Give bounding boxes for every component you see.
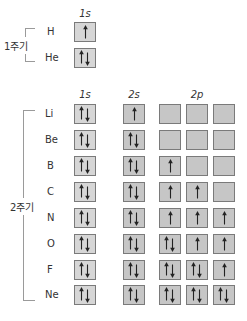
period-2-bracket-cap-bottom (23, 300, 35, 301)
spin-up-arrow-icon (168, 211, 173, 225)
spin-up-arrow-icon (195, 185, 200, 199)
orbital-2p1-c (159, 182, 181, 202)
header-2p: 2p (159, 89, 235, 100)
spin-up-arrow-icon (195, 211, 200, 225)
orbital-1s-ne (74, 285, 96, 305)
spin-up-arrow-icon (164, 236, 169, 250)
spin-up-arrow-icon (79, 210, 84, 224)
orbital-1s-be (74, 130, 96, 150)
spin-up-arrow-icon (222, 263, 227, 277)
spin-up-arrow-icon (191, 287, 196, 301)
spin-down-arrow-icon (85, 108, 90, 122)
orbital-2s-li (123, 104, 145, 124)
spin-up-arrow-icon (79, 50, 84, 64)
orbital-2s-c (123, 182, 145, 202)
orbital-2p2-n (186, 208, 208, 228)
spin-up-arrow-icon (164, 262, 169, 276)
spin-down-arrow-icon (170, 264, 175, 278)
spin-down-arrow-icon (134, 160, 139, 174)
orbital-2p1-b (159, 156, 181, 176)
orbital-2p1-o (159, 234, 181, 254)
element-label-b: B (47, 160, 71, 171)
orbital-2p1-n (159, 208, 181, 228)
orbital-1s-li (74, 104, 96, 124)
orbital-2s-o (123, 234, 145, 254)
spin-up-arrow-icon (128, 210, 133, 224)
spin-down-arrow-icon (134, 186, 139, 200)
spin-down-arrow-icon (170, 238, 175, 252)
spin-down-arrow-icon (134, 238, 139, 252)
orbital-2p1-ne (159, 285, 181, 305)
spin-up-arrow-icon (164, 287, 169, 301)
spin-up-arrow-icon (79, 106, 84, 120)
spin-up-arrow-icon (191, 262, 196, 276)
orbital-2p3-f (213, 260, 235, 280)
spin-up-arrow-icon (128, 184, 133, 198)
orbital-2s-n (123, 208, 145, 228)
orbital-1s-n (74, 208, 96, 228)
period-2-bracket-bottom (23, 212, 24, 300)
spin-up-arrow-icon (195, 237, 200, 251)
element-label-ne: Ne (45, 289, 69, 300)
orbital-2p2-f (186, 260, 208, 280)
spin-down-arrow-icon (85, 264, 90, 278)
orbital-2p1-li (159, 104, 181, 124)
orbital-2s-be (123, 130, 145, 150)
spin-up-arrow-icon (128, 158, 133, 172)
element-label-c: C (47, 186, 71, 197)
orbital-1s-c (74, 182, 96, 202)
orbital-2p3-o (213, 234, 235, 254)
spin-down-arrow-icon (85, 289, 90, 303)
spin-up-arrow-icon (222, 237, 227, 251)
orbital-1s-o (74, 234, 96, 254)
orbital-2p1-be (159, 130, 181, 150)
spin-down-arrow-icon (197, 264, 202, 278)
spin-up-arrow-icon (132, 107, 137, 121)
period-2-bracket-cap-top (23, 110, 35, 111)
orbital-2s-b (123, 156, 145, 176)
spin-up-arrow-icon (128, 262, 133, 276)
header-1s: 1s (74, 89, 96, 100)
element-label-f: F (47, 264, 71, 275)
spin-down-arrow-icon (197, 289, 202, 303)
spin-up-arrow-icon (79, 236, 84, 250)
orbital-1s-b (74, 156, 96, 176)
orbital-1s-f (74, 260, 96, 280)
orbital-2p2-o (186, 234, 208, 254)
spin-up-arrow-icon (128, 236, 133, 250)
orbital-2p3-n (213, 208, 235, 228)
spin-down-arrow-icon (170, 289, 175, 303)
spin-up-arrow-icon (79, 287, 84, 301)
spin-up-arrow-icon (218, 287, 223, 301)
element-label-be: Be (45, 134, 69, 145)
spin-down-arrow-icon (134, 134, 139, 148)
spin-up-arrow-icon (168, 185, 173, 199)
orbital-2p3-li (213, 104, 235, 124)
orbital-2s-ne (123, 285, 145, 305)
header-1s-period1: 1s (74, 8, 96, 19)
element-label-h: H (47, 26, 71, 37)
spin-down-arrow-icon (224, 289, 229, 303)
spin-up-arrow-icon (79, 184, 84, 198)
spin-down-arrow-icon (85, 212, 90, 226)
orbital-2p3-ne (213, 285, 235, 305)
element-label-n: N (47, 212, 71, 223)
spin-down-arrow-icon (134, 264, 139, 278)
orbital-2p3-be (213, 130, 235, 150)
spin-up-arrow-icon (168, 159, 173, 173)
spin-down-arrow-icon (85, 238, 90, 252)
spin-up-arrow-icon (83, 25, 88, 39)
spin-up-arrow-icon (79, 158, 84, 172)
orbital-2p3-c (213, 182, 235, 202)
spin-down-arrow-icon (85, 52, 90, 66)
spin-up-arrow-icon (79, 262, 84, 276)
spin-up-arrow-icon (79, 132, 84, 146)
orbital-2s-f (123, 260, 145, 280)
period-2-bracket-top (23, 110, 24, 198)
period-1-bracket-cap-bottom (25, 61, 35, 62)
orbital-2p2-li (186, 104, 208, 124)
orbital-2p3-b (213, 156, 235, 176)
period-1-label: 1주기 (4, 37, 28, 54)
header-2s: 2s (123, 89, 145, 100)
spin-down-arrow-icon (134, 212, 139, 226)
